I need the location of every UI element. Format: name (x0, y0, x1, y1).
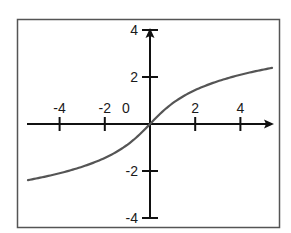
x-tick-label: 4 (237, 100, 245, 116)
y-tick-label: 2 (130, 69, 138, 85)
y-tick-label: -2 (126, 163, 139, 179)
y-tick-label: 4 (130, 22, 138, 38)
y-tick-label: -4 (126, 210, 139, 226)
origin-label: 0 (122, 100, 130, 116)
x-tick-label: 2 (191, 100, 199, 116)
x-tick-label: -4 (53, 100, 66, 116)
chart: -4-224 42-2-4 0 (0, 0, 291, 233)
x-tick-label: -2 (99, 100, 112, 116)
